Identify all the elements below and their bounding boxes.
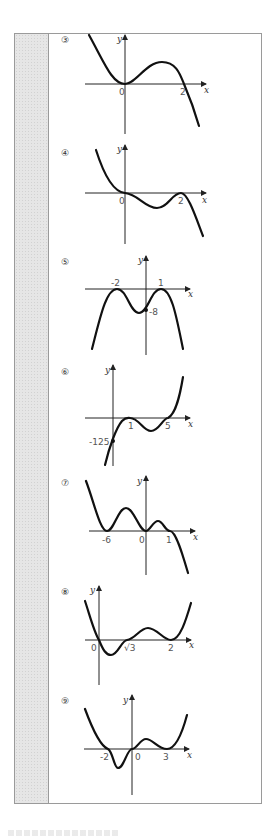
tick-label: 1 bbox=[158, 278, 164, 288]
tick-label: 1 bbox=[166, 535, 172, 545]
tick-label: -6 bbox=[102, 535, 111, 545]
y-intercept-point bbox=[144, 308, 148, 312]
tick-label: -8 bbox=[149, 307, 158, 317]
x-axis-label: x bbox=[204, 85, 209, 95]
tick-label: 0 bbox=[139, 535, 145, 545]
tick-label: -2 bbox=[100, 752, 109, 762]
graph-number: ⑨ bbox=[61, 696, 69, 706]
tick-label: 5 bbox=[165, 421, 171, 431]
graph-4: ④ y x 0 2 bbox=[61, 144, 207, 244]
graph-number: ⑦ bbox=[61, 478, 69, 488]
tick-label: -125 bbox=[89, 437, 109, 447]
x-axis-label: x bbox=[202, 195, 207, 205]
y-axis-label: y bbox=[104, 365, 111, 375]
tick-label: 2 bbox=[168, 643, 174, 653]
tick-label: 1 bbox=[128, 421, 134, 431]
y-axis-label: y bbox=[89, 585, 96, 595]
graph-8: ⑧ y x 0 √3 2 bbox=[61, 585, 194, 685]
graph-number: ⑤ bbox=[61, 257, 69, 267]
x-axis-label: x bbox=[188, 419, 193, 429]
cropped-footer-text bbox=[8, 830, 120, 836]
tick-label: -2 bbox=[111, 278, 120, 288]
x-axis-label: x bbox=[187, 750, 192, 760]
y-axis-label: y bbox=[116, 34, 123, 44]
tick-label: 0 bbox=[91, 643, 97, 653]
x-axis-label: x bbox=[188, 289, 193, 299]
y-axis-label: y bbox=[137, 255, 144, 265]
tick-label: √3 bbox=[124, 643, 135, 653]
graph-number: ③ bbox=[61, 35, 69, 45]
graph-6: ⑥ y x 1 -125 5 bbox=[61, 365, 193, 466]
tick-label: 3 bbox=[163, 752, 169, 762]
y-axis-label: y bbox=[122, 695, 129, 705]
function-curve bbox=[105, 377, 183, 465]
tick-label: 0 bbox=[135, 752, 141, 762]
x-axis-label: x bbox=[193, 532, 198, 542]
y-intercept-point bbox=[111, 439, 115, 443]
function-curve bbox=[92, 289, 183, 349]
graph-number: ⑧ bbox=[61, 587, 69, 597]
x-axis-label: x bbox=[189, 640, 194, 650]
function-curve bbox=[89, 35, 199, 126]
graph-7: ⑦ y x -6 0 1 bbox=[61, 476, 198, 575]
tick-label: 2 bbox=[180, 87, 186, 97]
tick-label: 0 bbox=[119, 196, 125, 206]
tick-label: 0 bbox=[119, 87, 125, 97]
graph-number: ⑥ bbox=[61, 367, 69, 377]
tick-label: 2 bbox=[178, 196, 184, 206]
graph-number: ④ bbox=[61, 148, 69, 158]
graph-3: ③ y x 0 2 bbox=[61, 34, 209, 134]
function-curve bbox=[85, 601, 191, 655]
function-curve bbox=[86, 481, 188, 573]
graphs-canvas: ③ y x 0 2 ④ y x 0 2 ⑤ y x -2 1 -8 ⑥ y bbox=[0, 0, 271, 839]
graph-5: ⑤ y x -2 1 -8 bbox=[61, 255, 193, 355]
y-axis-label: y bbox=[116, 144, 123, 154]
graph-9: ⑨ y x -2 0 3 bbox=[61, 695, 192, 795]
y-axis-label: y bbox=[136, 476, 143, 486]
